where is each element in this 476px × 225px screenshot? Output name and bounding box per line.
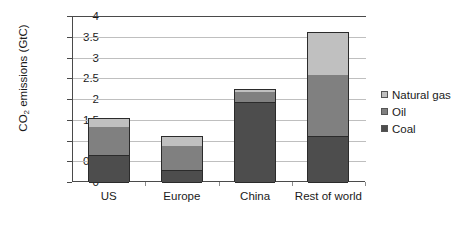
- bar-segment-natural-gas[interactable]: [308, 33, 348, 75]
- legend-swatch-icon: [381, 108, 388, 115]
- legend-item-natural-gas[interactable]: Natural gas: [381, 86, 451, 103]
- x-axis-label-rest-of-world: Rest of world: [295, 190, 362, 202]
- bar-slot: [145, 16, 218, 182]
- bar-segment-coal[interactable]: [89, 156, 129, 183]
- x-axis-tick-mark: [145, 182, 146, 186]
- legend-swatch-icon: [381, 125, 388, 132]
- legend-label: Oil: [392, 106, 406, 118]
- legend-item-oil[interactable]: Oil: [381, 103, 451, 120]
- chart-container: CO2 emissions (GtC) 00.511.522.533.54 US…: [0, 0, 476, 225]
- y-axis-title: CO2 emissions (GtC): [17, 0, 29, 163]
- y-axis-title-post: emissions (GtC): [17, 24, 29, 110]
- stacked-bar[interactable]: [307, 32, 349, 182]
- legend-item-coal[interactable]: Coal: [381, 120, 451, 137]
- y-axis-title-subscript: 2: [22, 110, 31, 114]
- legend-label: Coal: [392, 123, 416, 135]
- bar-segment-natural-gas[interactable]: [162, 137, 202, 147]
- bar-slot: [292, 16, 365, 182]
- legend: Natural gasOilCoal: [381, 86, 451, 137]
- x-axis-label-china: China: [240, 190, 270, 202]
- bar-segment-coal[interactable]: [162, 171, 202, 183]
- y-axis-title-pre: CO: [17, 114, 29, 131]
- bar-slot: [219, 16, 292, 182]
- bar-segment-oil[interactable]: [308, 75, 348, 136]
- bar-segment-coal[interactable]: [308, 137, 348, 183]
- legend-label: Natural gas: [392, 89, 451, 101]
- stacked-bar[interactable]: [88, 118, 130, 182]
- bar-segment-oil[interactable]: [235, 92, 275, 104]
- bar-group: [72, 16, 365, 182]
- x-axis-label-us: US: [101, 190, 117, 202]
- x-axis-label-europe: Europe: [163, 190, 200, 202]
- stacked-bar[interactable]: [234, 89, 276, 182]
- bar-segment-oil[interactable]: [162, 146, 202, 170]
- bar-slot: [72, 16, 145, 182]
- legend-swatch-icon: [381, 91, 388, 98]
- stacked-bar[interactable]: [161, 136, 203, 182]
- y-axis-tick-mark: [67, 182, 72, 183]
- bar-segment-natural-gas[interactable]: [89, 119, 129, 127]
- bar-segment-oil[interactable]: [89, 127, 129, 156]
- bar-segment-coal[interactable]: [235, 103, 275, 183]
- x-axis-tick-mark: [365, 182, 366, 186]
- x-axis-tick-mark: [219, 182, 220, 186]
- x-axis-tick-mark: [292, 182, 293, 186]
